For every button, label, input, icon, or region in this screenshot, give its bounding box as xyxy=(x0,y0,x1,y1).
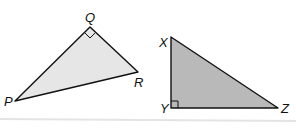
triangle-xyz: X Y Z xyxy=(158,35,290,116)
triangle-xyz-shape xyxy=(171,37,278,108)
vertex-label-y: Y xyxy=(160,101,170,116)
diagram-canvas: Q R P X Y Z xyxy=(0,0,296,128)
page-divider xyxy=(0,119,296,121)
vertex-label-p: P xyxy=(4,94,13,109)
triangle-pqr: Q R P xyxy=(4,10,143,109)
vertex-label-q: Q xyxy=(85,10,95,25)
vertex-label-z: Z xyxy=(280,101,290,116)
triangle-pqr-shape xyxy=(15,27,138,101)
vertex-label-x: X xyxy=(158,35,169,50)
vertex-label-r: R xyxy=(134,75,143,90)
